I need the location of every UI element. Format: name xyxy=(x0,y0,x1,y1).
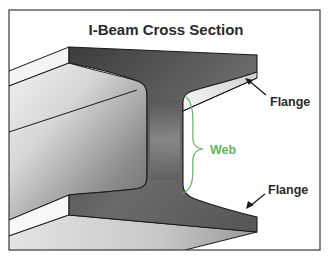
label-flange-bottom: Flange xyxy=(268,183,308,197)
web-highlight xyxy=(150,100,180,180)
i-beam-diagram: I-Beam Cross Section Flange Web Flange xyxy=(0,0,328,258)
diagram-title: I-Beam Cross Section xyxy=(88,21,243,38)
label-web: Web xyxy=(210,143,237,157)
label-flange-top: Flange xyxy=(270,95,310,109)
